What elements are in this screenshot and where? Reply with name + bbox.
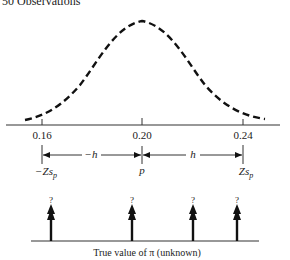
sampling-distribution-curve [25, 21, 265, 120]
neg-zsp-label: −Zsp [35, 166, 57, 181]
unknown-mark-3: ? [191, 195, 195, 206]
neg-zs-sub: p [53, 171, 57, 180]
pos-zsp-label: Zsp [239, 166, 253, 181]
unknown-mark-4: ? [235, 195, 239, 206]
unknown-mark-1: ? [49, 195, 53, 206]
tick-label-016: 0.16 [32, 130, 51, 141]
neg-h-label: −h [85, 149, 98, 160]
unknown-mark-2: ? [130, 195, 134, 206]
center-p-label: p [139, 165, 145, 176]
pos-zs-text: Zs [239, 165, 249, 177]
tick-label-024: 0.24 [233, 130, 252, 141]
true-value-caption: True value of π (unknown) [93, 247, 200, 258]
tick-label-020: 0.20 [132, 130, 151, 141]
pos-zs-sub: p [249, 171, 253, 180]
neg-zs-text: −Zs [35, 165, 53, 177]
h-label: h [190, 149, 196, 160]
